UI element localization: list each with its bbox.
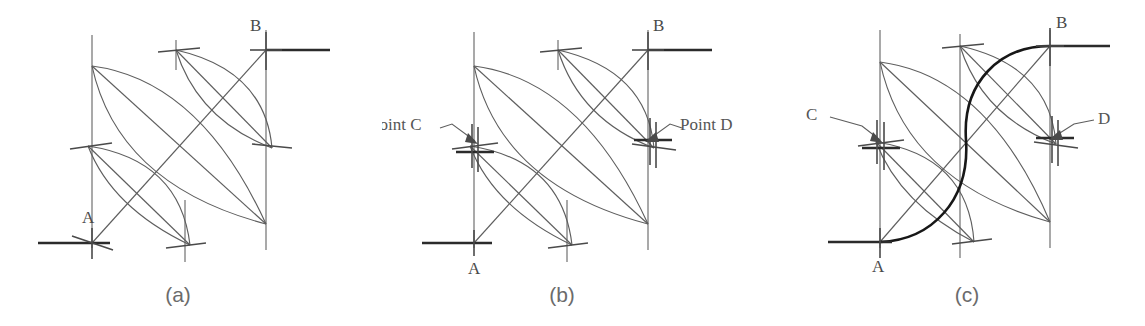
point-c-marker bbox=[452, 124, 498, 172]
label-point-b: B bbox=[1056, 13, 1067, 32]
leader-label-point-c: C bbox=[806, 105, 817, 124]
arc-set-b bbox=[470, 50, 654, 245]
panel-a-drawing: A B (a) bbox=[0, 0, 382, 326]
point-a-marker bbox=[828, 228, 892, 258]
label-point-b: B bbox=[653, 16, 664, 35]
label-point-a: A bbox=[82, 208, 95, 227]
label-point-a: A bbox=[468, 259, 481, 278]
panel-c-drawing: C D A B (c) bbox=[764, 0, 1145, 326]
label-point-a: A bbox=[872, 257, 885, 276]
panel-a: A B (a) bbox=[0, 0, 382, 326]
caption-a: (a) bbox=[165, 283, 191, 306]
leader-label-point-d: D bbox=[1098, 109, 1110, 128]
leader-point-c bbox=[830, 117, 883, 143]
label-point-b: B bbox=[250, 16, 261, 35]
panel-c: C D A B (c) bbox=[764, 0, 1145, 326]
caption-c: (c) bbox=[955, 283, 980, 306]
point-b-marker bbox=[632, 32, 712, 70]
point-c-marker bbox=[858, 120, 904, 170]
arc-set-a bbox=[88, 50, 272, 245]
figure-root: A B (a) bbox=[0, 0, 1145, 326]
leader-label-point-c: Point C bbox=[382, 115, 422, 134]
panel-b-drawing: Point C Point D A B (b) bbox=[382, 0, 764, 326]
chord-set-b bbox=[470, 50, 654, 245]
point-b-marker bbox=[250, 32, 330, 70]
leader-label-point-d: Point D bbox=[680, 115, 732, 134]
caption-b: (b) bbox=[549, 283, 575, 306]
chord-set-a bbox=[88, 50, 272, 245]
panel-b: Point C Point D A B (b) bbox=[382, 0, 764, 326]
